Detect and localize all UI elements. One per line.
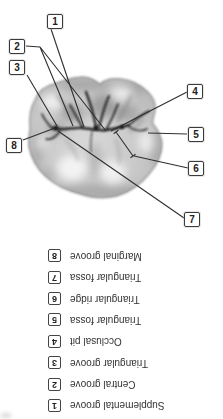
legend-row: Supplemental groove 1 (48, 399, 176, 412)
legend-numbox: 8 (48, 249, 61, 262)
callout-num: 5 (193, 130, 199, 140)
legend-label: Occlusal pit (61, 336, 176, 346)
callout-num: 2 (14, 42, 20, 52)
legend-num: 3 (52, 358, 57, 367)
callout-num: 7 (189, 215, 195, 225)
legend-numbox: 1 (48, 399, 61, 412)
tooth-body (29, 77, 163, 200)
legend-row: Marginal groove 8 (48, 249, 176, 262)
scan-artifact (0, 413, 12, 418)
legend-row: Central groove 2 (48, 378, 176, 391)
legend-label: Triangular fossa (61, 315, 176, 325)
legend-num: 8 (52, 251, 57, 260)
callout-box-4: 4 (187, 84, 203, 99)
legend-numbox: 3 (48, 356, 61, 369)
legend-num: 7 (52, 273, 57, 282)
legend-row: Triangular groove 3 (48, 356, 176, 369)
legend-label: Marginal groove (61, 251, 176, 261)
callout-num: 1 (52, 17, 58, 27)
legend-row: Triangular fossa 7 (48, 271, 176, 284)
callout-num: 4 (192, 87, 198, 97)
legend-label: Triangular ridge (61, 294, 176, 304)
callout-num: 8 (11, 141, 17, 151)
legend-label: Central groove (61, 379, 176, 389)
legend-numbox: 5 (48, 313, 61, 326)
legend-label: Triangular fossa (61, 272, 176, 282)
callout-box-3: 3 (9, 60, 25, 75)
legend-num: 4 (52, 337, 57, 346)
legend-row: Triangular fossa 5 (48, 313, 176, 326)
legend-numbox: 7 (48, 271, 61, 284)
tooth-occlusal-illustration (0, 0, 223, 245)
callout-box-5: 5 (188, 127, 204, 142)
legend-label: Supplemental groove (61, 401, 176, 411)
legend-row: Triangular ridge 6 (48, 292, 176, 305)
callout-num: 6 (193, 164, 199, 174)
scanned-figure: 1 2 3 4 5 6 7 8 Supplemental groove 1 Ce… (0, 0, 223, 419)
callout-box-1: 1 (47, 14, 63, 29)
legend-row: Occlusal pit 4 (48, 335, 176, 348)
legend-label: Triangular groove (61, 358, 176, 368)
legend-numbox: 6 (48, 292, 61, 305)
callout-box-6: 6 (188, 161, 204, 176)
legend-num: 2 (52, 380, 57, 389)
callout-box-7: 7 (184, 212, 200, 227)
callout-num: 3 (14, 63, 20, 73)
legend-numbox: 4 (48, 335, 61, 348)
callout-box-8: 8 (6, 138, 22, 153)
legend-numbox: 2 (48, 378, 61, 391)
legend-num: 6 (52, 294, 57, 303)
callout-box-2: 2 (9, 39, 25, 54)
legend-upside-down: Supplemental groove 1 Central groove 2 T… (48, 249, 176, 412)
legend-num: 1 (52, 401, 57, 410)
legend-num: 5 (52, 315, 57, 324)
